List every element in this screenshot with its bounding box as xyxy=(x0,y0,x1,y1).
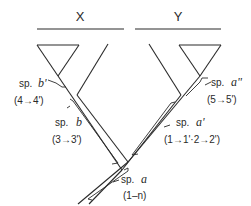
phylogeny-diagram: X Y xyxy=(0,0,251,206)
svg-text:(3→3'): (3→3') xyxy=(52,134,82,145)
leader-b xyxy=(67,106,70,108)
svg-text:b': b' xyxy=(38,76,47,90)
svg-text:b: b xyxy=(76,115,82,129)
svg-text:a': a' xyxy=(196,115,205,129)
lineage-y-outer xyxy=(149,44,181,95)
svg-text:sp.: sp. xyxy=(19,78,32,89)
species-label-a-prime: sp. a' (1→1'·2→2') xyxy=(164,115,220,145)
clade-triangle-x xyxy=(37,45,79,76)
svg-text:a": a" xyxy=(231,75,243,89)
svg-text:a: a xyxy=(141,172,147,186)
leader-b-prime xyxy=(48,80,56,83)
svg-text:sp.: sp. xyxy=(211,77,224,88)
lineage-x-outer xyxy=(77,44,108,95)
svg-text:(4→4'): (4→4') xyxy=(14,95,44,106)
species-label-b: sp. b (3→3') xyxy=(52,115,82,145)
svg-text:(1–n): (1–n) xyxy=(123,190,146,201)
species-label-b-prime: sp. b' (4→4') xyxy=(14,76,47,106)
leader-a-prime xyxy=(164,125,170,127)
species-tree-left-branch xyxy=(58,76,128,170)
species-label-a: sp. a (1–n) xyxy=(121,172,147,201)
species-label-a-double-prime: sp. a" (5→5') xyxy=(207,75,243,105)
svg-text:(5→5'): (5→5') xyxy=(207,94,237,105)
clade-triangle-y xyxy=(179,45,221,76)
group-label-y: Y xyxy=(174,9,183,24)
group-label-x: X xyxy=(76,9,85,24)
svg-text:(1→1'·2→2'): (1→1'·2→2') xyxy=(164,134,220,145)
svg-text:sp.: sp. xyxy=(176,117,189,128)
svg-text:sp.: sp. xyxy=(55,117,68,128)
svg-text:sp.: sp. xyxy=(121,174,134,185)
